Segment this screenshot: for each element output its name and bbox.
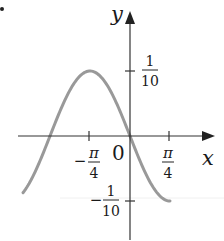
- svg-text:π: π: [88, 144, 100, 162]
- svg-text:10: 10: [141, 73, 159, 89]
- x-tick-label-neg-pi-4: − π 4: [74, 144, 100, 181]
- x-axis-label: x: [202, 146, 214, 170]
- svg-text:10: 10: [102, 203, 120, 219]
- svg-text:−: −: [74, 152, 87, 170]
- y-tick-label-neg-1-10: − 1 10: [90, 183, 120, 219]
- y-axis-arrow-icon: [125, 11, 135, 24]
- svg-text:π: π: [162, 144, 174, 162]
- x-axis-arrow-icon: [202, 131, 215, 141]
- svg-text:−: −: [90, 191, 103, 209]
- y-axis-label: y: [110, 2, 124, 26]
- svg-text:4: 4: [164, 165, 173, 181]
- svg-text:4: 4: [90, 165, 99, 181]
- svg-text:1: 1: [146, 53, 155, 69]
- y-tick-label-1-10: 1 10: [141, 53, 159, 89]
- x-tick-label-pi-4: π 4: [162, 144, 174, 181]
- origin-label: 0: [112, 141, 125, 165]
- graph-canvas: y x 0 1 10 − 1 10 − π 4 π 4: [0, 0, 224, 241]
- svg-text:1: 1: [107, 183, 116, 199]
- bullet-dot: [0, 7, 4, 11]
